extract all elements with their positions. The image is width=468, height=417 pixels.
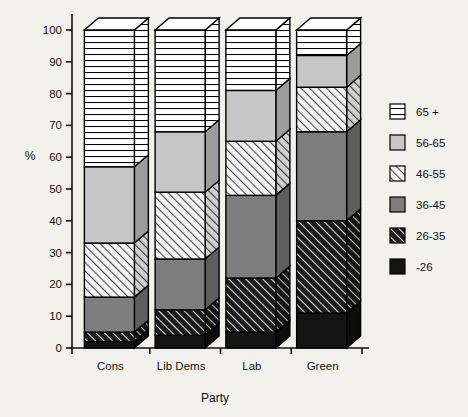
- y-tick-label: 100: [43, 24, 62, 36]
- bar-segment: [155, 192, 205, 259]
- bar-segment-side: [205, 18, 219, 132]
- bar-cons: [84, 18, 148, 348]
- legend-label: 56-65: [416, 137, 445, 149]
- y-tick-label: 40: [49, 215, 62, 227]
- bar-segment: [297, 55, 347, 87]
- legend-swatch-26-35: [390, 228, 405, 243]
- legend-swatch-36-45: [390, 197, 405, 212]
- bar-segment: [226, 332, 276, 348]
- category-label: Cons: [97, 360, 124, 372]
- y-tick-label: 80: [49, 88, 62, 100]
- bar-segment-side: [205, 180, 219, 259]
- legend-swatch-46-55: [390, 166, 405, 181]
- bar-segment: [297, 30, 347, 55]
- x-axis-title: Party: [201, 391, 229, 405]
- bar-segment-side: [134, 18, 148, 167]
- y-axis-title: %: [25, 149, 36, 163]
- bar-segment: [84, 167, 134, 243]
- legend-label: 65 +: [416, 106, 439, 118]
- bar-segment: [226, 278, 276, 332]
- bar-segment-side: [347, 120, 361, 221]
- legend-label: -26: [416, 261, 433, 273]
- bar-segment: [84, 342, 134, 348]
- y-tick-label: 0: [56, 342, 62, 354]
- y-tick-label: 20: [49, 278, 62, 290]
- bar-segment: [84, 243, 134, 297]
- category-label: Green: [307, 360, 339, 372]
- legend-label: 46-55: [416, 168, 445, 180]
- legend-swatch-56-65: [390, 135, 405, 150]
- legend-label: 26-35: [416, 230, 445, 242]
- category-label: Lab: [242, 360, 261, 372]
- y-tick-label: 70: [49, 119, 62, 131]
- bar-segment-side: [134, 155, 148, 243]
- y-tick-label: 10: [49, 310, 62, 322]
- legend-label: 36-45: [416, 199, 445, 211]
- bar-segment: [84, 297, 134, 332]
- bar-green: [297, 18, 361, 348]
- bar-segment: [84, 30, 134, 167]
- bar-segment: [297, 313, 347, 348]
- bar-segment-side: [276, 183, 290, 278]
- bar-segment: [155, 259, 205, 310]
- y-tick-label: 90: [49, 56, 62, 68]
- chart-canvas: 0102030405060708090100 ConsLib DemsLabGr…: [0, 0, 468, 417]
- category-label: Lib Dems: [157, 360, 206, 372]
- bar-segment: [84, 332, 134, 342]
- bar-segment: [226, 195, 276, 278]
- bar-segment: [155, 310, 205, 335]
- bar-lib-dems: [155, 18, 219, 348]
- bar-segment: [155, 30, 205, 132]
- legend-swatch--26: [390, 259, 405, 274]
- bar-segment: [226, 30, 276, 90]
- bar-segment: [155, 132, 205, 192]
- stacked-bar-chart: 0102030405060708090100 ConsLib DemsLabGr…: [0, 0, 468, 417]
- bar-segment: [226, 90, 276, 141]
- bar-segment: [297, 221, 347, 313]
- y-tick-label: 50: [49, 183, 62, 195]
- bar-segment: [226, 141, 276, 195]
- y-tick-label: 60: [49, 151, 62, 163]
- y-tick-label: 30: [49, 247, 62, 259]
- bar-lab: [226, 18, 290, 348]
- bar-segment: [155, 335, 205, 348]
- legend-swatch-65-: [390, 104, 405, 119]
- bar-segment: [297, 132, 347, 221]
- bar-segment-side: [347, 209, 361, 313]
- bar-segment: [297, 87, 347, 132]
